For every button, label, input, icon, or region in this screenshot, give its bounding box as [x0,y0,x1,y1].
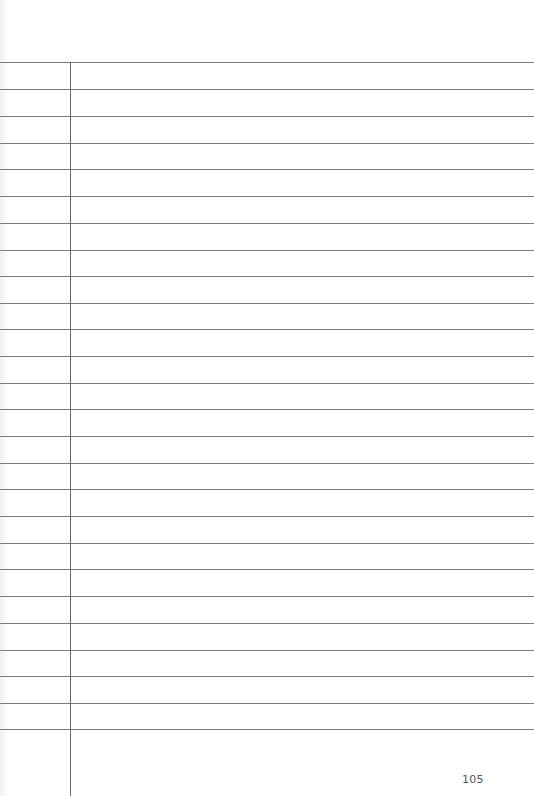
ruled-line [0,223,534,224]
ruled-line [0,650,534,651]
ruled-line [0,596,534,597]
ruled-line [0,703,534,704]
ruled-line [0,62,534,63]
ruled-line [0,383,534,384]
ruled-line [0,303,534,304]
ruled-line [0,143,534,144]
ruled-line [0,196,534,197]
ruled-line [0,543,534,544]
ruled-line [0,169,534,170]
ruled-line [0,729,534,730]
margin-line [70,62,71,796]
ruled-line [0,116,534,117]
ruled-line [0,276,534,277]
ruled-line [0,409,534,410]
ruled-line [0,489,534,490]
ruled-line [0,329,534,330]
ruled-line [0,356,534,357]
ruled-line [0,89,534,90]
ruled-line [0,569,534,570]
ruled-line [0,623,534,624]
notebook-page: 105 [0,0,534,796]
ruled-line [0,436,534,437]
ruled-line [0,463,534,464]
page-number: 105 [462,773,484,786]
ruled-line [0,516,534,517]
ruled-line [0,250,534,251]
ruled-line [0,676,534,677]
